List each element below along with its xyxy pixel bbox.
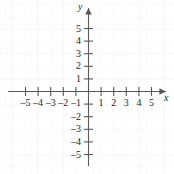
x-tick-label: –1 (71, 98, 81, 108)
x-tick-label: –4 (33, 98, 43, 108)
y-tick-label: 4 (76, 36, 81, 46)
axes-group (0, 0, 174, 174)
x-tick-label: 3 (124, 98, 129, 108)
y-tick-label: –3 (71, 124, 81, 134)
y-tick-label: 1 (76, 74, 81, 84)
y-axis-label: y (78, 2, 82, 12)
x-tick-label: –2 (58, 98, 68, 108)
y-tick-label: –2 (71, 112, 81, 122)
x-tick-label: 5 (149, 98, 154, 108)
y-tick-label: –5 (71, 150, 81, 160)
y-tick-label: –4 (71, 137, 81, 147)
y-tick-label: 2 (76, 61, 81, 71)
x-tick-label: –5 (21, 98, 31, 108)
x-tick-label: 2 (111, 98, 116, 108)
x-tick-label: 1 (99, 98, 104, 108)
y-tick-label: 5 (76, 24, 81, 34)
coordinate-plane-figure: –5 –4 –3 –2 –1 1 2 3 4 5 5 4 3 2 1 –2 –3… (0, 0, 174, 174)
x-tick-label: –3 (46, 98, 56, 108)
y-tick-label: 3 (76, 49, 81, 59)
x-tick-label: 4 (136, 98, 141, 108)
x-axis-label: x (164, 93, 168, 103)
